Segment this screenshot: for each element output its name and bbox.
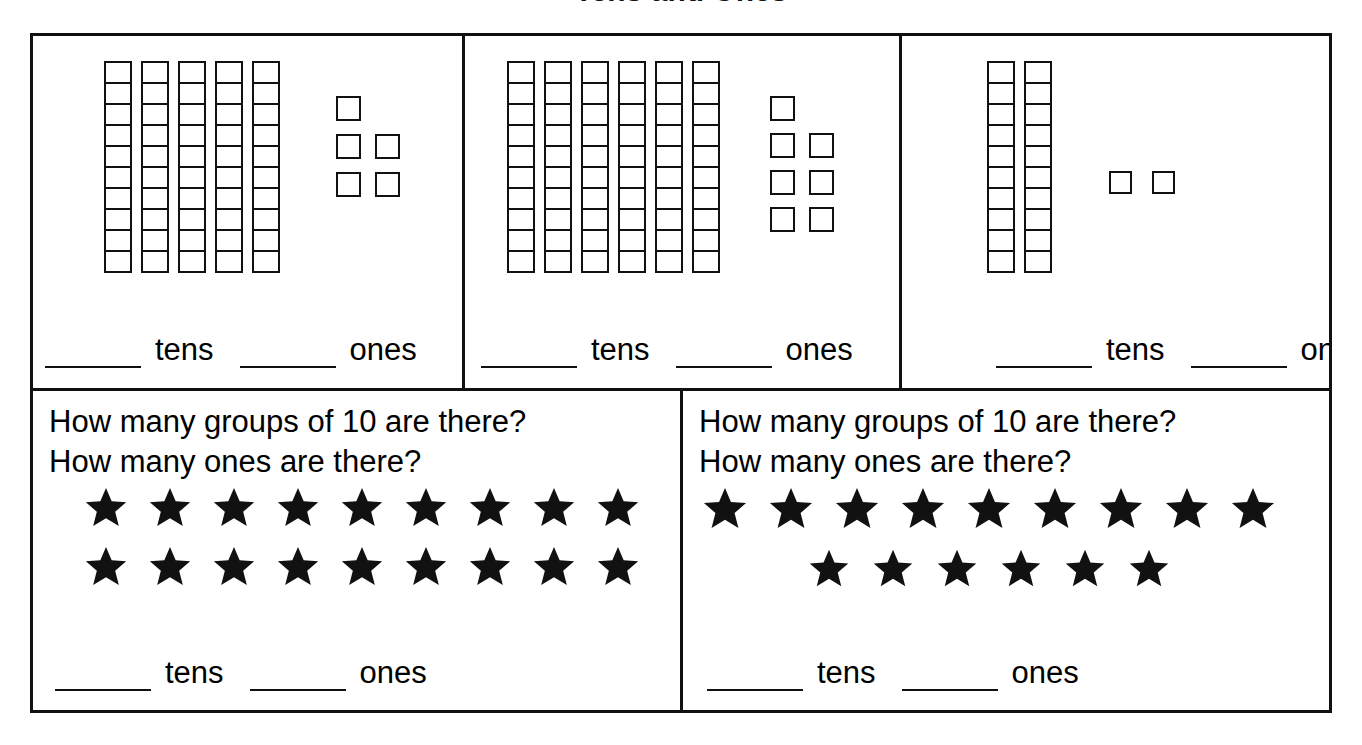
ones-blank-input[interactable] bbox=[250, 688, 346, 691]
ones-blank-input[interactable] bbox=[1191, 365, 1287, 368]
unit-cell bbox=[141, 166, 169, 189]
unit-cell bbox=[544, 124, 572, 147]
unit-cell bbox=[252, 166, 280, 189]
unit-cell bbox=[507, 145, 535, 168]
unit-cell bbox=[655, 250, 683, 273]
unit-cell bbox=[104, 166, 132, 189]
unit-cell bbox=[618, 103, 646, 126]
unit-cell bbox=[1024, 103, 1052, 126]
base-ten-panel-2[interactable]: tens ones bbox=[465, 36, 902, 388]
unit-cell bbox=[544, 82, 572, 105]
unit-cell bbox=[655, 187, 683, 210]
unit-cell bbox=[987, 187, 1015, 210]
unit-cell bbox=[987, 124, 1015, 147]
unit-cell bbox=[581, 187, 609, 210]
unit-cell bbox=[507, 250, 535, 273]
unit-cell bbox=[581, 61, 609, 84]
tens-rod bbox=[618, 61, 646, 273]
unit-cell bbox=[692, 229, 720, 252]
unit-cell bbox=[215, 208, 243, 231]
unit-cell bbox=[618, 229, 646, 252]
unit-cell bbox=[692, 208, 720, 231]
base-ten-panel-1[interactable]: tens ones bbox=[33, 36, 465, 388]
star-rows-2 bbox=[683, 485, 1329, 589]
star-icon bbox=[211, 544, 257, 588]
unit-cell bbox=[215, 229, 243, 252]
star-panels-row: How many groups of 10 are there? How man… bbox=[33, 391, 1329, 713]
ones-label: ones bbox=[786, 334, 853, 368]
star-icon bbox=[1031, 485, 1079, 531]
unit-cell bbox=[178, 82, 206, 105]
star-icon bbox=[1097, 485, 1145, 531]
unit-cell bbox=[104, 145, 132, 168]
unit-cell bbox=[141, 229, 169, 252]
ones-blank-input[interactable] bbox=[240, 365, 336, 368]
unit-cell bbox=[1024, 208, 1052, 231]
unit-cell bbox=[252, 124, 280, 147]
tens-rod bbox=[178, 61, 206, 273]
unit-cell bbox=[987, 103, 1015, 126]
ones-blank-input[interactable] bbox=[676, 365, 772, 368]
unit-cell bbox=[618, 82, 646, 105]
ones-unit bbox=[809, 207, 834, 232]
tens-label: tens bbox=[591, 334, 650, 368]
star-icon bbox=[595, 485, 641, 529]
tens-label: tens bbox=[1106, 334, 1165, 368]
star-panel-2[interactable]: How many groups of 10 are there? How man… bbox=[683, 391, 1329, 713]
unit-cell bbox=[987, 250, 1015, 273]
ones-unit bbox=[809, 170, 834, 195]
unit-cell bbox=[215, 82, 243, 105]
star-icon bbox=[339, 544, 385, 588]
star-icon bbox=[83, 485, 129, 529]
unit-cell bbox=[252, 103, 280, 126]
ones-unit bbox=[770, 96, 795, 121]
unit-cell bbox=[618, 61, 646, 84]
ones-label: ones bbox=[1301, 334, 1329, 368]
tens-rod bbox=[544, 61, 572, 273]
unit-cell bbox=[544, 208, 572, 231]
unit-cell bbox=[252, 229, 280, 252]
unit-cell bbox=[215, 187, 243, 210]
unit-cell bbox=[215, 166, 243, 189]
star-panel-1[interactable]: How many groups of 10 are there? How man… bbox=[33, 391, 683, 713]
tens-blank-input[interactable] bbox=[481, 365, 577, 368]
star-icon bbox=[767, 485, 815, 531]
unit-cell bbox=[692, 124, 720, 147]
star-icon bbox=[467, 485, 513, 529]
star-icon bbox=[275, 544, 321, 588]
unit-cell bbox=[692, 187, 720, 210]
ones-blank-input[interactable] bbox=[902, 688, 998, 691]
ones-unit bbox=[809, 133, 834, 158]
tens-label: tens bbox=[817, 657, 876, 691]
unit-cell bbox=[1024, 250, 1052, 273]
star-icon bbox=[1127, 547, 1171, 589]
unit-cell bbox=[692, 61, 720, 84]
unit-cell bbox=[581, 103, 609, 126]
question-groups-of-ten: How many groups of 10 are there? bbox=[699, 402, 1176, 442]
ones-unit bbox=[375, 134, 400, 159]
tens-blank-input[interactable] bbox=[996, 365, 1092, 368]
tens-blank-input[interactable] bbox=[45, 365, 141, 368]
base-ten-panel-3[interactable]: tens ones bbox=[902, 36, 1329, 388]
star-icon bbox=[871, 547, 915, 589]
star-row bbox=[33, 485, 680, 529]
star-icon bbox=[1063, 547, 1107, 589]
ones-unit bbox=[770, 207, 795, 232]
ones-units-group-1 bbox=[336, 96, 400, 197]
unit-cell bbox=[544, 166, 572, 189]
star-icon bbox=[807, 547, 851, 589]
unit-cell bbox=[987, 229, 1015, 252]
unit-cell bbox=[104, 187, 132, 210]
unit-cell bbox=[692, 145, 720, 168]
unit-cell bbox=[1024, 82, 1052, 105]
unit-cell bbox=[507, 61, 535, 84]
tens-blank-input[interactable] bbox=[55, 688, 151, 691]
unit-cell bbox=[987, 82, 1015, 105]
unit-cell bbox=[141, 103, 169, 126]
unit-cell bbox=[618, 187, 646, 210]
unit-cell bbox=[104, 208, 132, 231]
ones-unit bbox=[1109, 171, 1132, 194]
tens-rods-group-1 bbox=[104, 61, 280, 273]
tens-blank-input[interactable] bbox=[707, 688, 803, 691]
unit-cell bbox=[141, 187, 169, 210]
